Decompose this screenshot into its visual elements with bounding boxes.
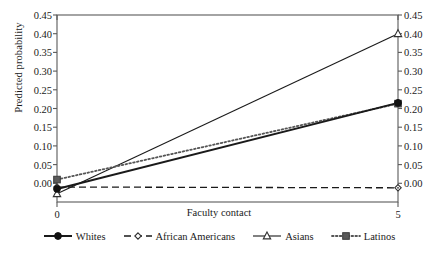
legend-swatch-filled-square-icon	[331, 230, 361, 242]
legend-item-asians[interactable]: Asians	[252, 230, 314, 242]
legend-marker-filled-circle-icon	[54, 233, 61, 240]
plot-area	[0, 0, 438, 253]
marker-open-triangle	[394, 30, 401, 37]
series-line-whites	[57, 103, 398, 189]
series-line-african-americans	[57, 187, 398, 188]
marker-filled-circle	[54, 186, 61, 193]
legend-label: Asians	[285, 231, 314, 242]
legend-swatch-open-diamond-icon	[123, 230, 153, 242]
plot-frame	[57, 15, 398, 202]
legend-marker-open-diamond-icon	[134, 233, 140, 239]
legend-marker-filled-square-icon	[342, 233, 349, 240]
series-line-asians	[57, 34, 398, 194]
marker-filled-square	[54, 176, 61, 183]
figure-root: Predicted probability 0.000.050.100.150.…	[0, 0, 438, 253]
marker-filled-circle	[395, 99, 402, 106]
legend-item-latinos[interactable]: Latinos	[331, 230, 396, 242]
legend-label: Whites	[76, 231, 106, 242]
legend-label: African Americans	[156, 231, 236, 242]
chart-legend: WhitesAfrican AmericansAsiansLatinos	[0, 230, 438, 242]
legend-marker-open-triangle-icon	[263, 232, 270, 239]
legend-swatch-filled-circle-icon	[43, 230, 73, 242]
legend-item-african-americans[interactable]: African Americans	[123, 230, 236, 242]
legend-item-whites[interactable]: Whites	[43, 230, 106, 242]
legend-swatch-open-triangle-icon	[252, 230, 282, 242]
legend-label: Latinos	[364, 231, 396, 242]
marker-diamond-dot	[397, 187, 399, 189]
